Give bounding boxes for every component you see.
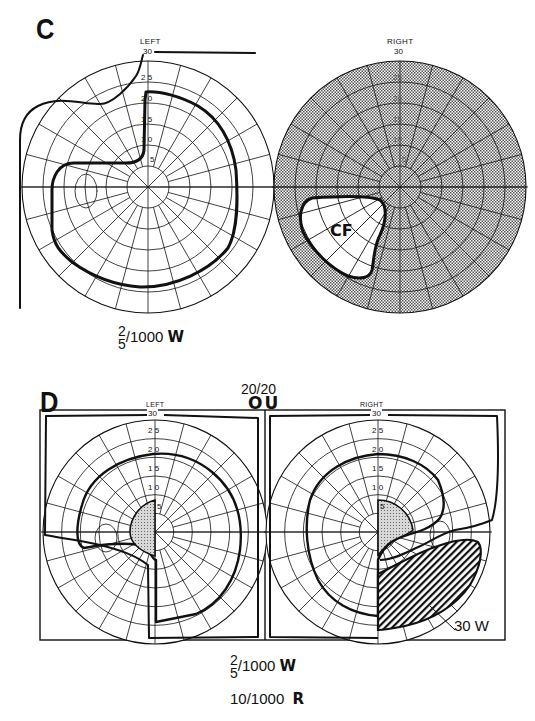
- panel-d-legend: 2 5 /1000 W: [230, 654, 296, 680]
- panel-c-right-eye-label: RIGHT: [387, 37, 413, 46]
- panel-c-letter: C: [36, 12, 54, 46]
- ring-label: 5: [157, 502, 161, 511]
- panel-d-defect-label: 30 W: [454, 617, 489, 634]
- panel-c-left-eye-label: LEFT: [140, 37, 161, 46]
- ring-label: 2 5: [148, 426, 159, 435]
- ring-label: 1 0: [141, 135, 152, 144]
- ring-label: 20: [393, 94, 402, 103]
- ring-label: 2 5: [141, 73, 152, 82]
- legend-code: W: [168, 328, 185, 346]
- panel-c-legend: 2 5 /1000 W: [118, 325, 184, 351]
- panel-c-left-top-value: 30: [143, 47, 152, 56]
- ring-label: 1 5: [141, 115, 152, 124]
- ring-label: 1 5: [148, 464, 159, 473]
- panel-d-left-top-value: 30: [147, 409, 158, 418]
- ring-label: 1 5: [372, 464, 383, 473]
- panel-c-right-top-value: 30: [394, 47, 403, 56]
- legend-fraction: 2 5: [230, 654, 238, 680]
- panel-d-left-eye-label: LEFT: [146, 401, 164, 408]
- legend-denominator: 5: [118, 338, 126, 351]
- legend-rest: /1000: [126, 328, 164, 345]
- legend-denominator: 5: [230, 667, 238, 680]
- legend-line2-value: 10/1000: [230, 690, 284, 707]
- ring-label: 5: [402, 155, 406, 164]
- legend-rest: /1000: [238, 657, 276, 674]
- panel-d-ou-label: OU: [248, 393, 280, 413]
- ring-label: 5: [150, 155, 154, 164]
- ring-label: 2 5: [372, 426, 383, 435]
- ring-label: 5: [380, 502, 384, 511]
- ring-label: 2 0: [148, 445, 159, 454]
- ring-label: 2 0: [141, 94, 152, 103]
- ring-label: 10: [393, 135, 402, 144]
- ring-label: 1 0: [148, 483, 159, 492]
- panel-d-right-eye-label: RIGHT: [360, 401, 383, 408]
- ring-label: 25: [393, 73, 402, 82]
- ring-label: 15: [393, 115, 402, 124]
- legend-fraction: 2 5: [118, 325, 126, 351]
- panel-c-cf-label: CF: [330, 221, 353, 240]
- panel-d-right-top-value: 30: [371, 409, 382, 418]
- ring-label: 1 0: [372, 483, 383, 492]
- panel-d-legend-line2: 10/1000 R: [230, 690, 304, 708]
- legend-code: W: [280, 657, 297, 675]
- panel-d-letter: D: [40, 385, 58, 419]
- legend-line2-code: R: [293, 690, 305, 708]
- visual-field-charts: [0, 0, 535, 721]
- ring-label: 2 0: [372, 445, 383, 454]
